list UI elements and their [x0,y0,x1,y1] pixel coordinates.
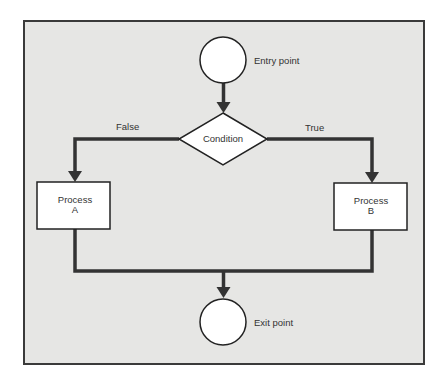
true-label: True [305,122,324,133]
flowchart-diagram: Entry point Condition False True Process… [0,0,446,386]
entry-label: Entry point [254,55,300,66]
process-a-label-line2: A [72,204,79,215]
exit-node [200,299,246,345]
entry-node [200,37,246,83]
condition-label: Condition [203,133,243,144]
exit-label: Exit point [254,317,293,328]
false-label: False [116,121,139,132]
process-b-label-line2: B [368,205,374,216]
